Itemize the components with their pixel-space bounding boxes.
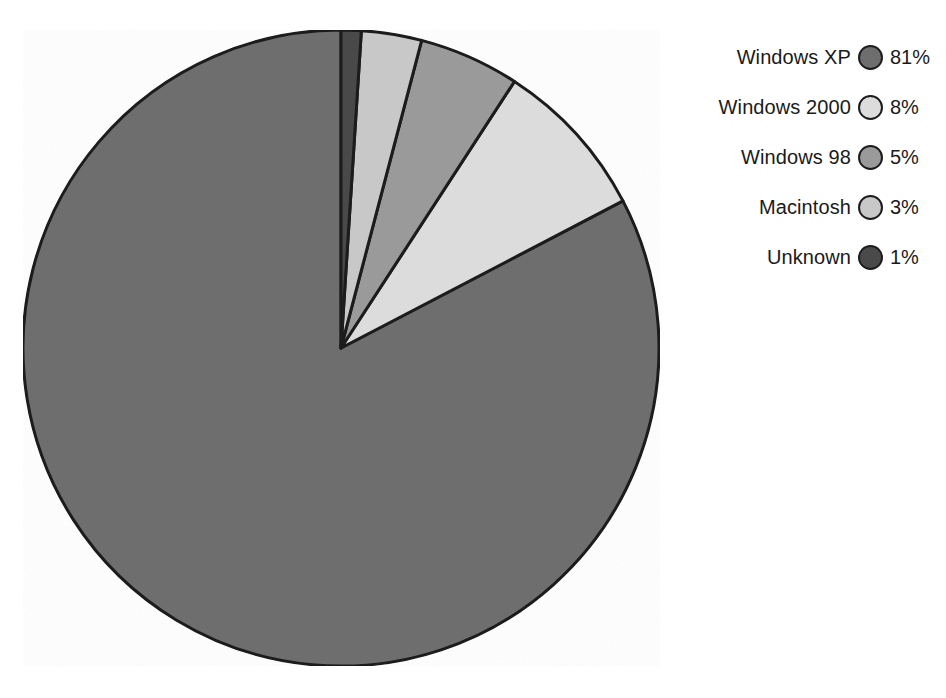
legend-item-value: 81% xyxy=(890,44,946,70)
legend-item-value: 8% xyxy=(890,94,946,120)
legend-item-value: 1% xyxy=(890,244,946,270)
legend-item: Windows XP81% xyxy=(690,44,946,70)
legend-color-swatch xyxy=(858,245,883,270)
pie-chart-area xyxy=(0,0,690,698)
legend-item: Windows 20008% xyxy=(690,94,946,120)
legend-item-value: 5% xyxy=(890,144,946,170)
legend-color-swatch xyxy=(858,145,883,170)
legend-color-swatch xyxy=(858,95,883,120)
legend-item-label: Windows 98 xyxy=(741,144,851,170)
legend-color-swatch xyxy=(858,195,883,220)
legend-item: Unknown1% xyxy=(690,244,946,270)
legend-item: Windows 985% xyxy=(690,144,946,170)
chart-legend: Windows XP81%Windows 20008%Windows 985%M… xyxy=(690,44,946,294)
legend-item-label: Windows 2000 xyxy=(719,94,851,120)
legend-item-label: Macintosh xyxy=(759,194,851,220)
pie-slices-group xyxy=(23,30,659,666)
legend-item-value: 3% xyxy=(890,194,946,220)
legend-item: Macintosh3% xyxy=(690,194,946,220)
legend-color-swatch xyxy=(858,45,883,70)
pie-chart-svg xyxy=(0,0,690,698)
legend-item-label: Windows XP xyxy=(737,44,851,70)
legend-item-label: Unknown xyxy=(767,244,851,270)
